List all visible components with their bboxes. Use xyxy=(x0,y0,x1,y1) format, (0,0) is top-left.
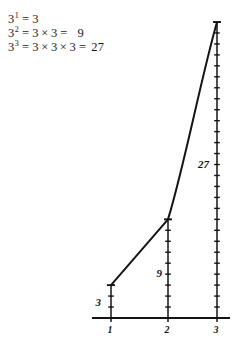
bar-group xyxy=(107,285,115,322)
bar-group xyxy=(213,22,221,322)
chart-svg-root: 3927123 xyxy=(92,22,230,335)
exponential-growth-chart: 3927123 xyxy=(0,0,233,342)
exponential-curve xyxy=(111,22,217,285)
x-axis-tick-label: 2 xyxy=(164,324,170,335)
x-axis-tick-label: 1 xyxy=(108,324,113,335)
bar-value-label: 3 xyxy=(95,296,102,308)
bar-value-label: 27 xyxy=(197,158,210,170)
bar-value-label: 9 xyxy=(157,267,163,279)
x-axis-tick-label: 3 xyxy=(213,324,219,335)
bar-group xyxy=(164,219,172,322)
